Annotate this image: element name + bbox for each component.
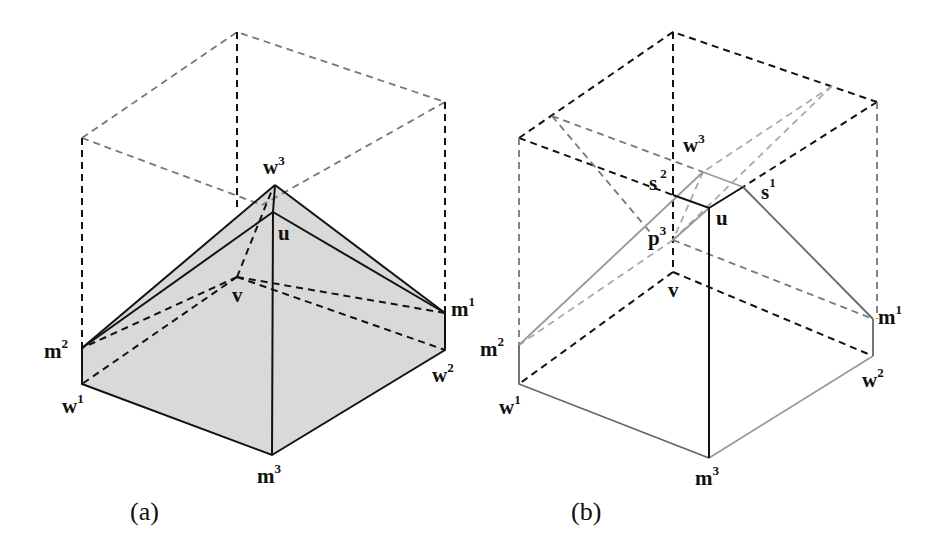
label-w3: w3 (263, 153, 285, 179)
label-w1: w1 (499, 392, 521, 419)
label-w3: w3 (683, 131, 705, 157)
label-m1: m1 (451, 294, 475, 321)
label-p3: p3 (648, 223, 667, 250)
caption-a: (a) (130, 497, 159, 526)
panel-b: w3 s2 s1 u p3 v m1 m2 w1 w2 m3 (b) (480, 32, 902, 526)
label-s2: s2 (649, 166, 667, 195)
label-m3: m3 (257, 461, 282, 488)
label-v: v (668, 278, 679, 302)
label-w2: w2 (432, 360, 454, 387)
label-w2: w2 (862, 365, 884, 392)
panel-a: w3 u v m1 m2 w1 w2 m3 (a) (44, 32, 475, 526)
label-w1: w1 (62, 391, 84, 418)
label-m2: m2 (480, 334, 504, 361)
label-v: v (232, 283, 243, 307)
label-m1: m1 (878, 302, 902, 329)
label-u: u (278, 221, 290, 245)
label-m2: m2 (44, 336, 68, 363)
pyramid-shading (82, 185, 445, 455)
label-u: u (716, 206, 728, 230)
label-s1: s1 (761, 175, 776, 204)
caption-b: (b) (571, 497, 601, 526)
label-m3: m3 (695, 463, 720, 490)
figure-canvas: w3 u v m1 m2 w1 w2 m3 (a) (0, 0, 947, 551)
